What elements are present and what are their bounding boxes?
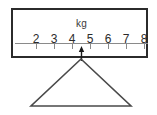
tick-mark-2 — [36, 44, 37, 49]
tick-mark-5 — [90, 44, 91, 49]
scale-diagram: kg 2345678 — [0, 0, 157, 115]
tick-mark-3 — [54, 44, 55, 49]
unit-label: kg — [13, 19, 150, 29]
scale-axis-line — [15, 43, 148, 44]
tick-mark-6 — [108, 44, 109, 49]
tick-mark-4 — [72, 44, 73, 49]
tick-mark-7 — [126, 44, 127, 49]
pointer-needle-icon — [78, 46, 85, 61]
tick-mark-8 — [144, 44, 145, 49]
